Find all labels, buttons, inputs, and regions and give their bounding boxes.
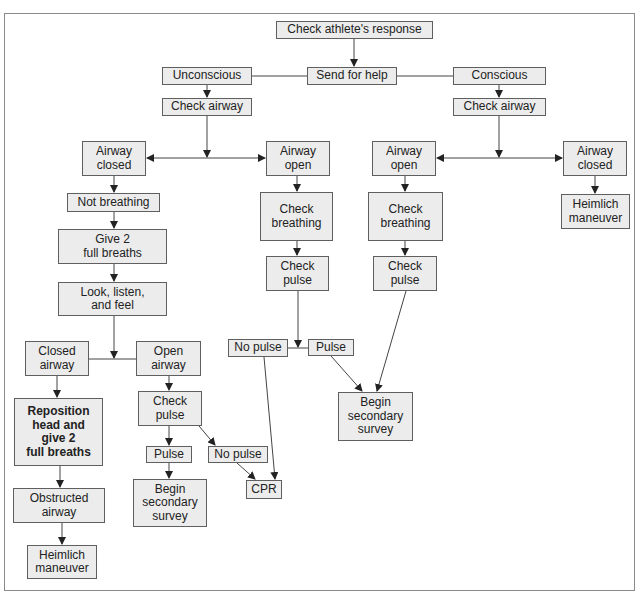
- node-no-pulse-middle: No pulse: [228, 339, 288, 357]
- node-closed-airway: Closed airway: [25, 341, 89, 376]
- node-check-pulse-open-airway: Check pulse: [138, 391, 202, 426]
- node-not-breathing: Not breathing: [67, 193, 160, 212]
- node-check-airway-unconscious: Check airway: [162, 98, 252, 116]
- node-no-pulse-open-airway: No pulse: [208, 446, 268, 463]
- node-check-pulse-unconscious: Check pulse: [266, 256, 329, 291]
- node-send-for-help: Send for help: [307, 67, 397, 85]
- node-open-airway: Open airway: [136, 341, 201, 376]
- node-obstructed-airway: Obstructed airway: [13, 488, 105, 523]
- node-look-listen-feel: Look, listen, and feel: [58, 282, 167, 316]
- node-conscious: Conscious: [453, 67, 546, 85]
- node-heimlich-maneuver-unconscious: Heimlich maneuver: [27, 545, 97, 579]
- node-airway-open-unconscious: Airway open: [266, 141, 330, 176]
- node-check-airway-conscious: Check airway: [453, 98, 546, 116]
- node-begin-secondary-survey-left: Begin secondary survey: [133, 479, 207, 527]
- node-reposition-head-give-breaths: Reposition head and give 2 full breaths: [14, 398, 103, 466]
- node-airway-closed-conscious: Airway closed: [563, 141, 627, 176]
- node-check-pulse-conscious: Check pulse: [373, 256, 437, 291]
- node-begin-secondary-survey-right: Begin secondary survey: [338, 392, 413, 441]
- node-heimlich-maneuver-conscious: Heimlich maneuver: [561, 194, 630, 229]
- node-airway-closed-unconscious: Airway closed: [82, 141, 146, 176]
- node-airway-open-conscious: Airway open: [372, 141, 436, 176]
- node-give-2-full-breaths: Give 2 full breaths: [58, 229, 167, 264]
- node-pulse-middle: Pulse: [308, 339, 354, 356]
- node-check-breathing-unconscious: Check breathing: [260, 192, 333, 241]
- node-check-breathing-conscious: Check breathing: [368, 192, 443, 241]
- node-unconscious: Unconscious: [162, 67, 252, 85]
- node-cpr: CPR: [246, 480, 282, 499]
- node-check-athletes-response: Check athlete's response: [276, 21, 433, 39]
- node-pulse-open-airway: Pulse: [146, 446, 192, 463]
